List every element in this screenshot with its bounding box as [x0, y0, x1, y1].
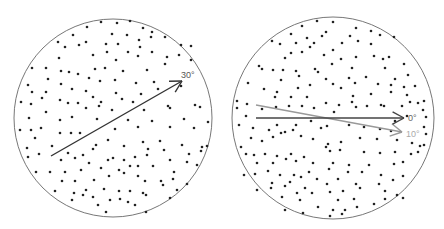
- dot: [342, 190, 345, 193]
- dot: [30, 103, 33, 106]
- dot: [97, 204, 100, 207]
- right-panel-random-dots-0-10deg: 10°0°: [232, 17, 434, 219]
- dot: [402, 161, 405, 164]
- dot: [370, 43, 373, 46]
- dot: [402, 197, 405, 200]
- dot: [313, 107, 316, 110]
- dot: [392, 179, 395, 182]
- dot: [246, 103, 249, 106]
- dot: [59, 119, 62, 122]
- dot: [331, 63, 334, 66]
- dot: [45, 91, 48, 94]
- left-panel-random-dots-30deg: 30°: [14, 19, 212, 217]
- dot: [118, 190, 121, 193]
- dot: [163, 149, 166, 152]
- dot: [281, 196, 284, 199]
- dot: [127, 119, 130, 122]
- dot: [280, 79, 283, 82]
- dot: [151, 31, 154, 34]
- dot: [390, 84, 393, 87]
- dot: [236, 100, 239, 103]
- dot: [383, 105, 386, 108]
- dot: [263, 88, 266, 91]
- dot: [308, 171, 311, 174]
- arrow-head-icon: [390, 132, 402, 136]
- dot: [19, 129, 22, 132]
- dot: [188, 153, 191, 156]
- dot: [290, 96, 293, 99]
- dot: [169, 197, 172, 200]
- dot: [361, 171, 364, 174]
- dot: [92, 54, 95, 57]
- dot: [88, 77, 91, 80]
- dot: [129, 165, 132, 168]
- dot: [27, 156, 30, 159]
- dot: [272, 136, 275, 139]
- dot: [425, 133, 428, 136]
- dot: [332, 162, 335, 165]
- dot: [295, 42, 298, 45]
- dot: [28, 117, 31, 120]
- dot: [139, 46, 142, 49]
- dot: [99, 80, 102, 83]
- dot: [104, 67, 107, 70]
- dot: [186, 183, 189, 186]
- dot: [284, 209, 287, 212]
- dot: [285, 158, 288, 161]
- dot: [151, 51, 154, 54]
- dot: [423, 126, 426, 129]
- dot: [134, 204, 137, 207]
- dot: [306, 37, 309, 40]
- dot: [159, 140, 162, 143]
- dot: [304, 187, 307, 190]
- dot: [276, 155, 279, 158]
- dot: [339, 149, 342, 152]
- dot: [302, 212, 305, 215]
- dot: [295, 160, 298, 163]
- dot: [78, 44, 81, 47]
- dot: [115, 92, 118, 95]
- dot: [145, 194, 148, 197]
- dot: [34, 137, 37, 140]
- dot: [74, 180, 77, 183]
- dot: [59, 99, 62, 102]
- dot: [300, 135, 303, 138]
- dot: [172, 178, 175, 181]
- dot: [332, 83, 335, 86]
- dot: [320, 127, 323, 130]
- dot: [365, 76, 368, 79]
- dot: [348, 77, 351, 80]
- dot: [321, 35, 324, 38]
- dot: [332, 49, 335, 52]
- dot: [351, 101, 354, 104]
- dot: [236, 107, 239, 110]
- dot: [105, 43, 108, 46]
- dot: [115, 59, 118, 62]
- dot: [245, 153, 248, 156]
- dot: [292, 129, 295, 132]
- dot: [351, 67, 354, 70]
- dot: [349, 35, 352, 38]
- dot: [85, 41, 88, 44]
- dot: [145, 211, 148, 214]
- dot: [118, 169, 121, 172]
- dot: [384, 198, 387, 201]
- dot: [290, 33, 293, 36]
- dot: [176, 189, 179, 192]
- dot: [240, 146, 243, 149]
- dot: [380, 174, 383, 177]
- dot: [162, 184, 165, 187]
- dot: [112, 157, 115, 160]
- dot: [35, 171, 38, 174]
- dot: [325, 146, 328, 149]
- dot: [301, 105, 304, 108]
- dot: [354, 82, 357, 85]
- dot: [70, 132, 73, 135]
- dot: [96, 118, 99, 121]
- dot: [328, 168, 331, 171]
- dot: [384, 190, 387, 193]
- dot: [422, 109, 425, 112]
- dot: [274, 96, 277, 99]
- dot: [107, 159, 110, 162]
- dot: [147, 148, 150, 151]
